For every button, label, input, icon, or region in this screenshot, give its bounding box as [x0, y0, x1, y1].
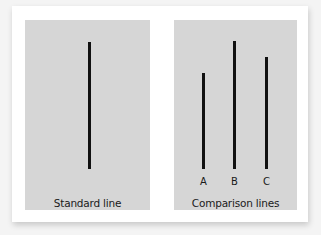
comparison-lines-panel: A B C Comparison lines — [174, 20, 297, 210]
comparison-line-b — [233, 41, 236, 169]
comparison-label-b: B — [231, 177, 238, 187]
standard-line-caption: Standard line — [25, 198, 150, 209]
comparison-label-a: A — [200, 177, 207, 187]
comparison-line-c — [265, 57, 268, 169]
comparison-lines-caption: Comparison lines — [174, 198, 297, 209]
standard-line — [88, 42, 91, 169]
comparison-label-c: C — [263, 177, 270, 187]
standard-line-panel: Standard line — [25, 20, 150, 210]
comparison-line-a — [202, 73, 205, 169]
figure-card: Standard line A B C Comparison lines — [12, 6, 308, 222]
